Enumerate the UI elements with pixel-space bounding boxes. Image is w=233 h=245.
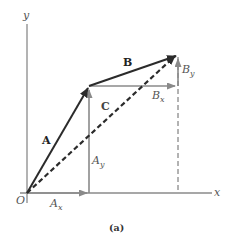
x-axis-label: x <box>214 186 221 199</box>
vector-c-arrow <box>27 56 175 193</box>
origin-label: O <box>16 194 25 207</box>
vector-b-arrow <box>89 56 176 86</box>
figure-caption: (a) <box>109 222 124 233</box>
component-ay-label: Ay <box>91 154 105 169</box>
component-ax-label: Ax <box>49 197 63 212</box>
vector-b-label: B <box>123 56 132 69</box>
y-axis-label: y <box>22 9 30 22</box>
vector-addition-diagram: y x O A B C Ax Ay Bx By (a) <box>0 0 233 245</box>
component-bx-label: Bx <box>151 89 165 104</box>
vector-c-label: C <box>101 100 110 113</box>
component-by-label: By <box>181 63 195 78</box>
vector-a-arrow <box>27 88 88 193</box>
vector-a-label: A <box>41 134 51 147</box>
